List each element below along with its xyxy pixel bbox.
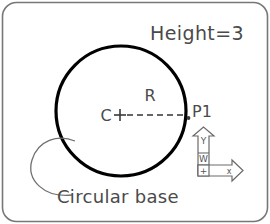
height-label: Height=3 bbox=[150, 22, 244, 44]
radius-label: R bbox=[144, 86, 155, 105]
x-axis-label: x bbox=[227, 167, 232, 176]
diagram-canvas: Height=3 R C P1 Circular base Y W + x bbox=[0, 0, 270, 224]
y-axis-label: Y bbox=[200, 136, 207, 146]
technical-diagram-figure: Height=3 R C P1 Circular base Y W + x bbox=[0, 0, 270, 224]
world-marker-label: W bbox=[199, 154, 208, 164]
origin-marker-label: + bbox=[200, 166, 208, 176]
point-p1-marker bbox=[187, 116, 191, 120]
center-label: C bbox=[100, 106, 111, 125]
point-label: P1 bbox=[192, 102, 212, 121]
caption-label: Circular base bbox=[57, 186, 179, 207]
